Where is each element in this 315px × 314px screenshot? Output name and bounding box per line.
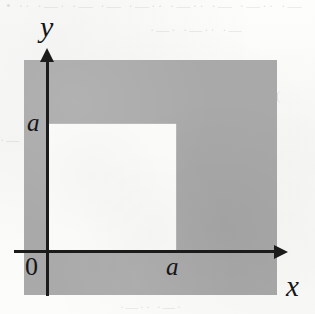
x-axis-tick-label-a: a (166, 254, 179, 279)
x-axis-arrow-icon (274, 245, 288, 259)
y-axis-arrow-icon (40, 48, 54, 62)
figure-root: • ·· ·—· ·— ·— ·—·· ·—·· ·— ·—·· ·— ·—· … (0, 0, 315, 314)
y-axis-line (46, 58, 49, 296)
y-axis-tick-label-a: a (27, 110, 40, 135)
y-axis-label: y (40, 12, 53, 42)
square-notch-region (49, 124, 176, 252)
x-axis-label: x (286, 272, 299, 301)
x-axis-line (14, 250, 280, 253)
origin-label: 0 (25, 254, 38, 280)
